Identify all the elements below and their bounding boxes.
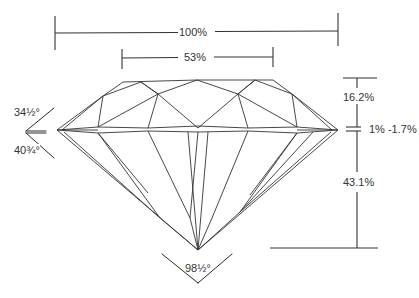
total-width-label: 100% (179, 26, 207, 38)
pavilion-angle-label: 40¾° (14, 144, 40, 156)
depth-dimension (270, 78, 378, 248)
culet-angle-label: 98½° (185, 262, 211, 274)
pavilion (57, 130, 338, 250)
diamond-drawing (0, 0, 419, 298)
crown (57, 80, 338, 130)
girdle-thickness-label: 1% -1.7% (369, 123, 417, 135)
crown-angle-label: 34½° (14, 106, 40, 118)
table-width-label: 53% (184, 51, 206, 63)
diamond-proportion-diagram: 100% 53% 16.2% 1% -1.7% 43.1% 34½° 40¾° … (0, 0, 419, 298)
crown-height-label: 16.2% (343, 91, 374, 103)
pavilion-depth-label: 43.1% (343, 176, 374, 188)
